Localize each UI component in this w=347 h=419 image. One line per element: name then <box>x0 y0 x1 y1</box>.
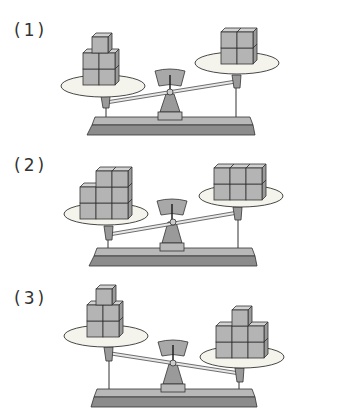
scale-2 <box>64 164 283 266</box>
balance-scales-diagram <box>0 0 347 419</box>
scale-2-left-cubes <box>80 167 132 219</box>
scale-3 <box>64 285 284 407</box>
scale-1 <box>61 28 279 135</box>
scale-2-right-cubes <box>214 164 266 200</box>
scale-3-left-cubes <box>87 285 123 337</box>
scale-1-left-cubes <box>83 33 119 85</box>
scale-1-right-cubes <box>221 28 257 64</box>
scale-3-right-cubes <box>216 306 268 358</box>
